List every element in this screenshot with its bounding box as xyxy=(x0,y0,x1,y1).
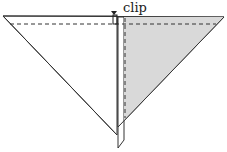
diagram-canvas xyxy=(0,0,227,152)
clip-arrow-icon xyxy=(111,11,117,15)
folded-triangle-diagram: clip xyxy=(0,0,227,152)
vertical-strip xyxy=(118,17,124,148)
clip-label: clip xyxy=(123,1,147,14)
left-hypotenuse xyxy=(3,16,117,135)
